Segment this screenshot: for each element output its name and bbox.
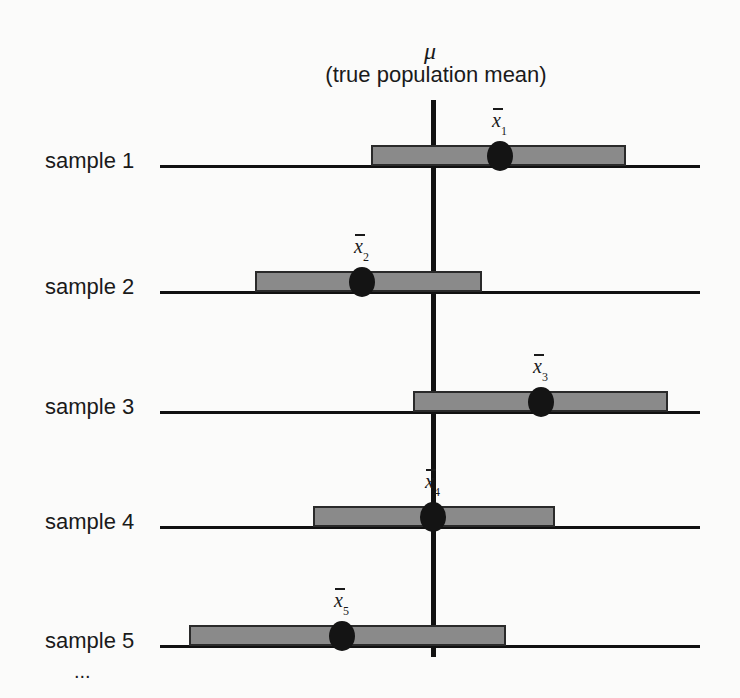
sample-mean-dot — [349, 267, 375, 297]
sample-mean-dot — [420, 502, 446, 532]
sample-label: sample 1 — [45, 149, 134, 173]
mu-caption: (true population mean) — [286, 62, 586, 88]
sample-mean-dot — [329, 621, 355, 651]
sample-mean-dot — [487, 141, 513, 171]
sample-label: sample 4 — [45, 510, 134, 534]
sample-mean-label: x1 — [492, 110, 507, 138]
sample-mean-label: x2 — [354, 236, 369, 264]
sample-mean-label: x4 — [425, 471, 440, 499]
sample-label: sample 5 — [45, 629, 134, 653]
sample-label: sample 3 — [45, 395, 134, 419]
sample-mean-label: x3 — [533, 356, 548, 384]
true-mean-line — [431, 100, 436, 657]
sample-label: sample 2 — [45, 275, 134, 299]
sample-mean-dot — [528, 387, 554, 417]
mu-symbol: μ — [424, 38, 436, 65]
sample-mean-label: x5 — [334, 590, 349, 618]
ellipsis: ... — [74, 660, 91, 683]
